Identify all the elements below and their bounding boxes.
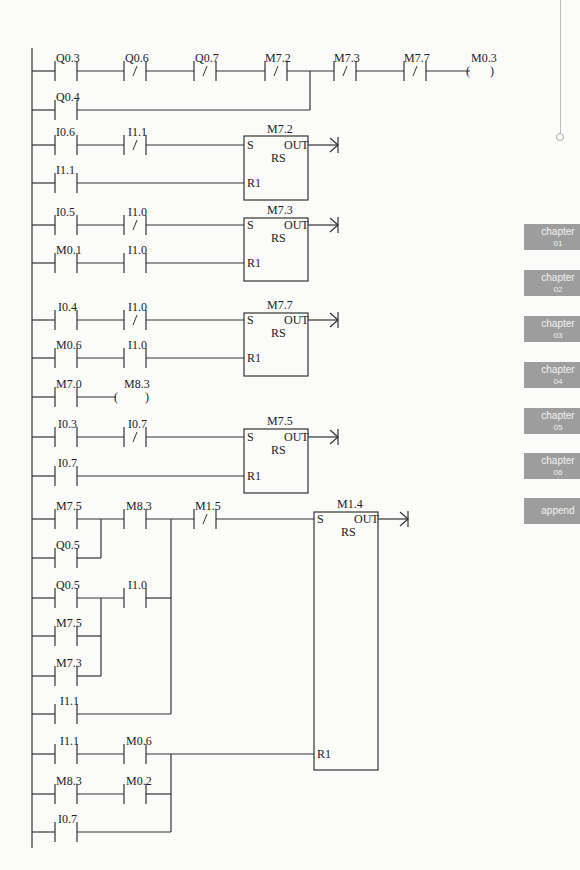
svg-text:Q0.5: Q0.5 — [56, 538, 80, 552]
tab-appendix[interactable]: append — [524, 498, 580, 524]
svg-text:M7.3: M7.3 — [56, 656, 82, 670]
tab-chapter-02[interactable]: chapter02 — [524, 270, 580, 296]
svg-text:I0.7: I0.7 — [128, 417, 147, 431]
svg-text:M1.5: M1.5 — [195, 499, 221, 513]
svg-text:R1: R1 — [247, 256, 261, 270]
svg-text:M7.2: M7.2 — [265, 51, 291, 65]
svg-text:R1: R1 — [247, 469, 261, 483]
svg-text:RS: RS — [271, 326, 286, 340]
svg-text:Q0.3: Q0.3 — [56, 51, 80, 65]
svg-text:S: S — [247, 218, 254, 232]
svg-text:M0.2: M0.2 — [126, 774, 152, 788]
svg-text:M7.5: M7.5 — [56, 499, 82, 513]
svg-text:I1.0: I1.0 — [128, 578, 147, 592]
svg-text:OUT: OUT — [354, 512, 379, 526]
svg-text:OUT: OUT — [284, 138, 309, 152]
svg-text:I0.5: I0.5 — [56, 205, 75, 219]
svg-text:R1: R1 — [247, 176, 261, 190]
svg-text:R1: R1 — [247, 351, 261, 365]
svg-text:M7.7: M7.7 — [267, 298, 293, 312]
svg-text:M0.6: M0.6 — [56, 338, 82, 352]
svg-text:M7.3: M7.3 — [334, 51, 360, 65]
svg-text:M7.7: M7.7 — [404, 51, 430, 65]
svg-text:Q0.7: Q0.7 — [195, 51, 219, 65]
svg-text:S: S — [247, 138, 254, 152]
svg-text:I1.1: I1.1 — [56, 163, 75, 177]
svg-text:M7.3: M7.3 — [267, 203, 293, 217]
svg-text:M1.4: M1.4 — [337, 497, 363, 511]
svg-text:RS: RS — [271, 231, 286, 245]
svg-text:I0.7: I0.7 — [58, 812, 77, 826]
svg-text:I1.0: I1.0 — [128, 205, 147, 219]
svg-text:RS: RS — [341, 525, 356, 539]
svg-text:S: S — [247, 313, 254, 327]
svg-text:I0.3: I0.3 — [58, 417, 77, 431]
ladder-diagram: ( ) ( ) Q0.3 Q0.6 Q0.7 M7.2 M7.3 M7.7 M0… — [0, 0, 580, 870]
svg-text:OUT: OUT — [284, 430, 309, 444]
svg-text:I1.0: I1.0 — [128, 243, 147, 257]
svg-text:Q0.5: Q0.5 — [56, 578, 80, 592]
svg-text:I1.0: I1.0 — [128, 338, 147, 352]
svg-text:M8.3: M8.3 — [56, 774, 82, 788]
svg-text:M0.6: M0.6 — [126, 734, 152, 748]
svg-text:I1.1: I1.1 — [60, 734, 79, 748]
tab-chapter-06[interactable]: chapter06 — [524, 453, 580, 479]
svg-text:I0.4: I0.4 — [58, 300, 77, 314]
svg-text:RS: RS — [271, 443, 286, 457]
svg-text:): ) — [145, 390, 149, 404]
svg-text:M0.3: M0.3 — [471, 51, 497, 65]
svg-text:M0.1: M0.1 — [56, 243, 82, 257]
svg-text:I0.7: I0.7 — [58, 456, 77, 470]
tab-chapter-05[interactable]: chapter05 — [524, 408, 580, 434]
svg-text:RS: RS — [271, 151, 286, 165]
coil-m0-3-open: ( — [466, 64, 470, 78]
svg-text:OUT: OUT — [284, 218, 309, 232]
svg-text:R1: R1 — [317, 747, 331, 761]
svg-text:S: S — [247, 430, 254, 444]
svg-text:Q0.4: Q0.4 — [56, 90, 80, 104]
svg-text:(: ( — [114, 390, 118, 404]
svg-text:I0.6: I0.6 — [56, 125, 75, 139]
svg-text:OUT: OUT — [284, 313, 309, 327]
svg-text:S: S — [317, 512, 324, 526]
svg-text:M8.3: M8.3 — [124, 377, 150, 391]
tab-chapter-04[interactable]: chapter04 — [524, 362, 580, 388]
svg-text:M7.5: M7.5 — [56, 616, 82, 630]
svg-text:M7.0: M7.0 — [56, 377, 82, 391]
svg-text:M8.3: M8.3 — [126, 499, 152, 513]
svg-text:M7.5: M7.5 — [267, 414, 293, 428]
tab-chapter-01[interactable]: chapter01 — [524, 224, 580, 250]
tab-chapter-03[interactable]: chapter03 — [524, 316, 580, 342]
svg-text:I1.1: I1.1 — [60, 694, 79, 708]
svg-text:I1.0: I1.0 — [128, 300, 147, 314]
svg-text:I1.1: I1.1 — [128, 125, 147, 139]
svg-text:M7.2: M7.2 — [267, 122, 293, 136]
coil-m0-3-close: ) — [490, 64, 494, 78]
svg-text:Q0.6: Q0.6 — [125, 51, 149, 65]
